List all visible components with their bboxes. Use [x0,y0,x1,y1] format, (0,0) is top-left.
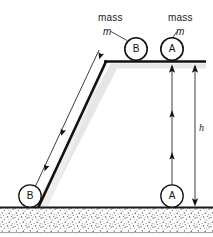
ball-a-bottom-label: A [166,191,178,201]
mass-right-label: mass [168,13,193,23]
mass-right-symbol: m [176,27,185,37]
ball-b-bottom-label: B [24,191,36,201]
mass-left-symbol: m [103,27,112,37]
ramp-motion-arrow [29,50,104,200]
physics-diagram: mass m mass m h B A B A [0,0,213,237]
ball-b-top-label: B [130,44,142,54]
ramp-shadow [35,62,207,207]
mass-left-leader-line [111,32,127,41]
mass-left-label: mass [98,13,123,23]
fall-motion-arrow [169,64,175,205]
ground [0,208,213,234]
height-dimension-line [192,64,198,206]
height-symbol-label: h [199,123,204,133]
ball-a-top-label: A [166,44,178,54]
ramp-surface [39,62,107,208]
